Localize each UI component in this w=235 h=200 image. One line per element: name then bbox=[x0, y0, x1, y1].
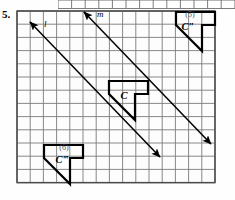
grid-figure: lmC(5)C″(6)C‴ bbox=[0, 0, 235, 200]
shape-label-shape-c: C bbox=[120, 90, 128, 101]
shape-tag-shape-c-double-prime: (5) bbox=[185, 10, 195, 19]
shape-label-shape-c-triple-prime: C‴ bbox=[56, 154, 69, 165]
figure-panel: 5. lmC(5)C″(6)C‴ bbox=[0, 0, 235, 200]
shape-label-shape-c-double-prime: C″ bbox=[182, 21, 195, 32]
grid-lines bbox=[17, 11, 215, 183]
shape-tag-shape-c-triple-prime: (6) bbox=[59, 143, 69, 152]
line-label-m: m bbox=[97, 9, 104, 19]
